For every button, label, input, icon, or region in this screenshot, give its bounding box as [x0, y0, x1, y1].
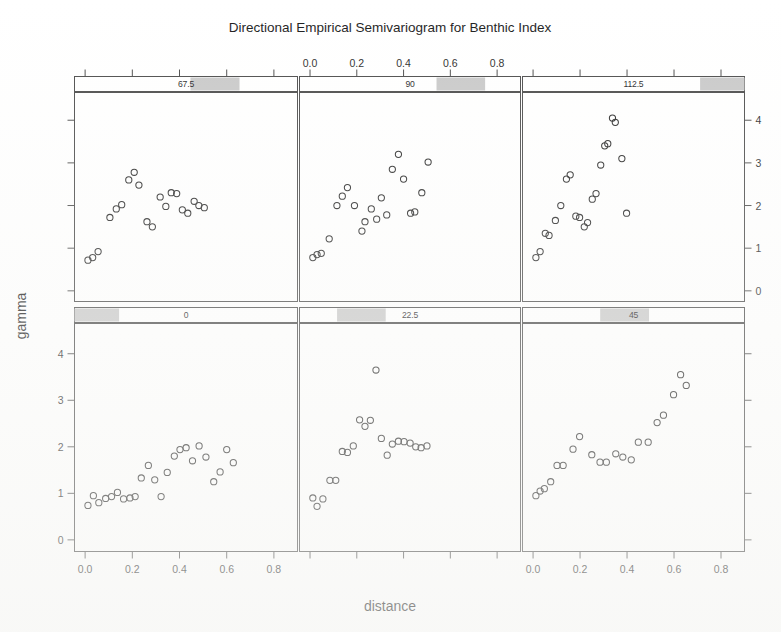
data-point: [201, 205, 207, 211]
data-point: [367, 417, 373, 423]
x-tick-label-bottom: 0.8: [714, 563, 729, 575]
x-tick-label-bottom: 0.6: [667, 563, 682, 575]
data-point: [145, 462, 151, 468]
data-point: [351, 202, 357, 208]
data-point: [635, 439, 641, 445]
strip-shade-112.5: [700, 78, 744, 91]
x-tick-label-bottom: 0.0: [78, 563, 93, 575]
y-tick-label-left: 1: [58, 487, 64, 499]
data-point: [368, 206, 374, 212]
data-point: [164, 469, 170, 475]
data-points-45: [533, 372, 690, 499]
data-point: [597, 459, 603, 465]
data-point: [425, 159, 431, 165]
data-point: [359, 228, 365, 234]
data-point: [400, 176, 406, 182]
data-point: [333, 477, 339, 483]
data-point: [419, 190, 425, 196]
data-point: [533, 254, 539, 260]
data-point: [314, 503, 320, 509]
data-point: [560, 462, 566, 468]
y-tick-label-right: 4: [756, 114, 762, 126]
data-point: [619, 156, 625, 162]
data-point: [589, 196, 595, 202]
data-point: [628, 457, 634, 463]
y-tick-label-right: 3: [756, 157, 762, 169]
x-axis-label: distance: [364, 598, 416, 614]
data-point: [126, 177, 132, 183]
strip-shade-67.5: [190, 78, 239, 91]
data-point: [378, 435, 384, 441]
data-point: [320, 496, 326, 502]
data-point: [144, 219, 150, 225]
data-point: [350, 443, 356, 449]
data-point: [95, 249, 101, 255]
x-tick-label-bottom: 0.2: [125, 563, 140, 575]
data-point: [327, 477, 333, 483]
y-axis-label: gamma: [13, 292, 29, 339]
data-point: [152, 477, 158, 483]
data-point: [171, 453, 177, 459]
strip-label-67.5: 67.5: [178, 79, 194, 89]
data-point: [96, 500, 102, 506]
panel-67.5: 67.5: [68, 70, 298, 302]
data-point: [576, 433, 582, 439]
x-tick-label-top: 0.8: [490, 57, 505, 69]
data-point: [344, 185, 350, 191]
data-point: [90, 493, 96, 499]
data-point: [177, 447, 183, 453]
panel-frame-22.5: [300, 324, 521, 552]
data-point: [113, 206, 119, 212]
panel-0: 00.00.20.40.60.801234: [58, 308, 298, 575]
data-point: [158, 493, 164, 499]
data-point: [581, 224, 587, 230]
x-tick-label-bottom: 0.6: [219, 563, 234, 575]
panel-frame-67.5: [75, 93, 298, 302]
plot-canvas: Directional Empirical Semivariogram for …: [0, 0, 781, 632]
data-point: [424, 443, 430, 449]
data-point: [119, 202, 125, 208]
x-tick-label-bottom: 0.0: [526, 563, 541, 575]
panel-frame-0: [75, 324, 298, 552]
data-points-67.5: [85, 169, 208, 263]
data-point: [558, 202, 564, 208]
x-tick-label-bottom: 0.2: [573, 563, 588, 575]
data-point: [357, 417, 363, 423]
data-point: [576, 214, 582, 220]
data-point: [138, 475, 144, 481]
data-point: [183, 445, 189, 451]
panel-22.5: 22.5: [300, 308, 521, 559]
panel-frame-112.5: [523, 93, 745, 302]
data-point: [189, 458, 195, 464]
data-point: [412, 209, 418, 215]
data-point: [613, 451, 619, 457]
data-point: [374, 216, 380, 222]
data-point: [593, 190, 599, 196]
data-point: [554, 462, 560, 468]
data-point: [136, 182, 142, 188]
data-point: [163, 203, 169, 209]
data-point: [589, 452, 595, 458]
data-point: [660, 412, 666, 418]
data-point: [654, 420, 660, 426]
data-point: [552, 217, 558, 223]
data-point: [120, 496, 126, 502]
data-point: [548, 479, 554, 485]
y-tick-label-left: 2: [58, 441, 64, 453]
panel-frame-45: [523, 324, 745, 552]
y-tick-label-left: 3: [58, 394, 64, 406]
data-point: [407, 210, 413, 216]
data-point: [85, 502, 91, 508]
data-point: [384, 212, 390, 218]
data-point: [598, 162, 604, 168]
data-point: [362, 219, 368, 225]
data-points-0: [85, 443, 237, 509]
data-point: [224, 447, 230, 453]
x-tick-label-top: 0.4: [396, 57, 411, 69]
data-point: [378, 195, 384, 201]
strip-label-22.5: 22.5: [402, 310, 418, 320]
strip-label-90: 90: [405, 79, 415, 89]
x-tick-label-bottom: 0.8: [267, 563, 282, 575]
data-point: [310, 495, 316, 501]
strip-shade-0: [75, 309, 120, 322]
